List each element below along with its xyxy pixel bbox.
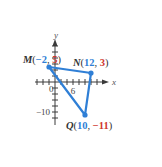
point-label-q: Q(10, −11) xyxy=(66,120,113,132)
x-coordinate: 12 xyxy=(84,57,95,68)
point-label-n: N(12, 3) xyxy=(72,57,109,69)
vertex-m xyxy=(46,64,51,69)
x-coordinate: −2 xyxy=(36,54,47,65)
y-axis-arrow-icon xyxy=(53,39,58,46)
y-axis-label: y xyxy=(53,30,58,40)
paren: ) xyxy=(109,120,113,132)
vertex-q xyxy=(82,112,87,117)
paren: ) xyxy=(105,57,109,69)
point-name: M xyxy=(22,54,33,65)
x-tick-label: 6 xyxy=(71,86,76,96)
x-axis-arrow-icon xyxy=(102,80,109,85)
y-tick-label: −10 xyxy=(36,107,51,117)
paren: ) xyxy=(58,54,62,66)
y-coordinate: −11 xyxy=(93,120,109,131)
vertex-n xyxy=(88,70,93,75)
x-axis-label: x xyxy=(111,77,116,87)
coordinate-plane: xy 06−10 M(−2, 5)N(12, 3)Q(10, −11) xyxy=(0,0,162,167)
origin-tick-label: 0 xyxy=(49,84,54,94)
x-coordinate: 10 xyxy=(77,120,88,131)
point-label-m: M(−2, 5) xyxy=(22,54,62,66)
